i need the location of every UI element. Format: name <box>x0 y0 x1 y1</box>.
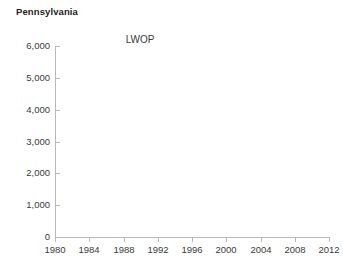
y-axis-tick-label-text: 4,000 <box>0 104 50 115</box>
y-axis-tick-label-text: 6,000 <box>0 40 50 51</box>
chart-figure: Pennsylvania LWOP 01,0002,0003,0004,0005… <box>0 0 343 269</box>
x-axis-tick-label: 1996 <box>181 244 202 255</box>
y-axis-tick-label: 6,000 <box>0 40 50 52</box>
x-axis-tick <box>295 238 296 242</box>
y-axis-tick-label-text: 3,000 <box>0 136 50 147</box>
y-axis-tick-label-text: 1,000 <box>0 199 50 210</box>
y-axis-tick-label: 4,000 <box>0 104 50 116</box>
y-axis-tick-label-text: 5,000 <box>0 72 50 83</box>
x-axis-tick-label: 2008 <box>284 244 305 255</box>
y-axis-tick-label: 3,000 <box>0 136 50 148</box>
y-axis-tick <box>56 78 60 79</box>
x-axis-tick <box>55 238 56 242</box>
x-axis-tick-label: 1992 <box>147 244 168 255</box>
x-axis-tick <box>158 238 159 242</box>
y-axis-tick-label: 1,000 <box>0 199 50 211</box>
x-axis-tick-label: 1984 <box>78 244 99 255</box>
x-axis-tick-label: 2004 <box>250 244 271 255</box>
y-axis-tick <box>56 237 60 238</box>
y-axis-tick-label: 5,000 <box>0 72 50 84</box>
y-axis-tick <box>56 173 60 174</box>
x-axis-tick-label: 1988 <box>113 244 134 255</box>
x-axis-tick-label: 2000 <box>215 244 236 255</box>
x-axis-tick <box>89 238 90 242</box>
x-axis-tick <box>124 238 125 242</box>
page-title: Pennsylvania <box>16 6 78 17</box>
series-label-lwop: LWOP <box>126 34 155 45</box>
y-axis-tick-label-text: 2,000 <box>0 167 50 178</box>
y-axis-tick-label: 2,000 <box>0 167 50 179</box>
y-axis-tick <box>56 142 60 143</box>
x-axis-tick <box>192 238 193 242</box>
x-axis-tick <box>329 238 330 242</box>
plot-area <box>55 46 329 237</box>
x-axis-tick-label: 2012 <box>318 244 339 255</box>
y-axis-tick <box>56 46 60 47</box>
y-axis-tick <box>56 110 60 111</box>
y-axis-tick <box>56 205 60 206</box>
x-axis-tick-label: 1980 <box>44 244 65 255</box>
x-axis-tick <box>261 238 262 242</box>
y-axis-tick-label-text: 0 <box>0 231 50 242</box>
y-axis-tick-label: 0 <box>0 231 50 243</box>
x-axis-tick <box>226 238 227 242</box>
